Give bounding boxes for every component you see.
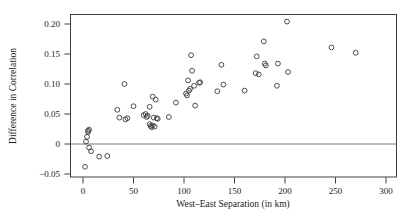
x-axis-title: West–East Separation (in km) [176,199,289,210]
x-tick-label: 150 [228,186,242,196]
y-axis-title: Difference in Correlation [8,48,18,144]
y-tick-label: 0.20 [44,19,60,29]
y-tick-label: 0.15 [44,49,60,59]
x-tick-label: 250 [329,186,343,196]
scatter-plot-figure: −0.0500.050.100.150.20 05010015020025030… [0,0,413,220]
y-tick-label: 0.05 [44,109,60,119]
y-tick-label: 0.10 [44,79,60,89]
y-tick-label: −0.05 [39,169,60,179]
x-tick-label: 200 [278,186,292,196]
y-tick-label: 0 [56,139,61,149]
x-tick-label: 50 [129,186,139,196]
figure-background [0,0,413,220]
x-tick-label: 100 [177,186,191,196]
plot-canvas: −0.0500.050.100.150.20 05010015020025030… [0,0,413,220]
x-tick-label: 0 [81,186,86,196]
x-tick-label: 300 [379,186,393,196]
